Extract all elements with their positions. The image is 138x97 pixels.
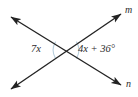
- angle-label-right: 4x + 36°: [78, 44, 115, 55]
- angle-label-left: 7x: [31, 44, 41, 55]
- line-label-m: m: [125, 5, 132, 15]
- diagram-canvas: [0, 0, 138, 97]
- line-label-n: n: [126, 79, 131, 89]
- geometry-diagram: 7x 4x + 36° m n: [0, 0, 138, 97]
